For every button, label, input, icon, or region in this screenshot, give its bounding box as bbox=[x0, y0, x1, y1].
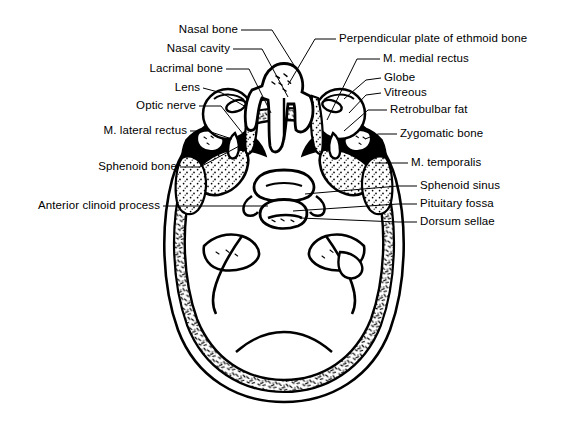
label-m-lateral-rectus: M. lateral rectus bbox=[103, 124, 187, 137]
label-zygomatic-bone: Zygomatic bone bbox=[400, 127, 483, 140]
label-m-medial-rectus: M. medial rectus bbox=[383, 52, 469, 65]
label-optic-nerve: Optic nerve bbox=[136, 99, 196, 112]
label-vitreous: Vitreous bbox=[384, 86, 427, 99]
label-nasal-bone: Nasal bone bbox=[179, 23, 238, 36]
anatomical-figure: Nasal boneNasal cavityLacrimal boneLensO… bbox=[0, 0, 568, 426]
label-globe: Globe bbox=[384, 71, 415, 84]
label-lens: Lens bbox=[175, 81, 200, 94]
label-nasal-cavity: Nasal cavity bbox=[167, 42, 230, 55]
label-lacrimal-bone: Lacrimal bone bbox=[149, 62, 223, 75]
anatomy-illustration bbox=[0, 0, 568, 426]
label-anterior-clinoid-process: Anterior clinoid process bbox=[38, 199, 160, 212]
label-perpendicular-plate-ethmoid: Perpendicular plate of ethmoid bone bbox=[339, 32, 527, 45]
label-sphenoid-sinus: Sphenoid sinus bbox=[420, 179, 500, 192]
label-retrobulbar-fat: Retrobulbar fat bbox=[390, 103, 468, 116]
label-dorsum-sellae: Dorsum sellae bbox=[420, 215, 495, 228]
label-sphenoid-bone: Sphenoid bone bbox=[98, 160, 177, 173]
label-pituitary-fossa: Pituitary fossa bbox=[420, 197, 494, 210]
label-m-temporalis: M. temporalis bbox=[411, 156, 481, 169]
